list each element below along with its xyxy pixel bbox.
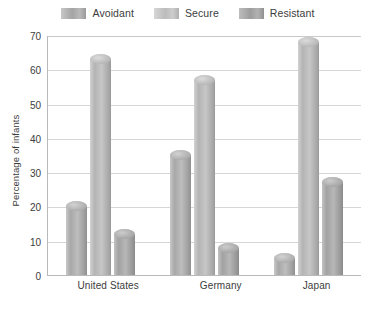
legend-swatch-resistant-icon [239,8,264,19]
legend-swatch-secure-icon [154,8,179,19]
bar-body [170,155,191,275]
chart-legend: Avoidant Secure Resistant [0,7,376,19]
bar-chart: Avoidant Secure Resistant Percentage of … [0,0,376,311]
bar-cap [114,229,135,239]
y-tick-label-40: 40 [30,133,41,144]
plot-area [47,36,361,276]
bar-resistant-united-states[interactable] [114,229,135,275]
legend-item-avoidant: Avoidant [61,7,133,19]
legend-label-secure: Secure [185,7,219,19]
bar-body [322,182,343,275]
bar-cap [194,75,215,85]
bar-secure-japan[interactable] [298,37,319,275]
bar-body [66,206,87,275]
bar-body [194,80,215,275]
bar-cap [274,253,295,263]
y-tick-label-10: 10 [30,236,41,247]
y-tick-label-0: 0 [35,271,41,282]
bar-secure-germany[interactable] [194,75,215,275]
y-tick-label-50: 50 [30,99,41,110]
bar-cap [170,150,191,160]
legend-label-avoidant: Avoidant [92,7,133,19]
legend-swatch-avoidant-icon [61,8,86,19]
bar-group-germany [170,36,239,275]
bar-resistant-germany[interactable] [218,243,239,275]
x-axis-ticks: United StatesGermanyJapan [47,280,361,291]
legend-item-secure: Secure [154,7,219,19]
y-tick-label-70: 70 [30,31,41,42]
legend-label-resistant: Resistant [270,7,315,19]
bar-cap [298,37,319,47]
y-tick-label-60: 60 [30,65,41,76]
bar-groups [48,36,361,275]
y-axis-ticks: 706050403020100 [0,36,47,276]
bar-secure-united-states[interactable] [90,54,111,275]
bar-resistant-japan[interactable] [322,177,343,275]
x-tick-label-germany: Germany [200,280,242,291]
y-tick-label-30: 30 [30,168,41,179]
bar-cap [218,243,239,253]
bar-body [90,59,111,275]
bar-avoidant-japan[interactable] [274,253,295,275]
bar-group-japan [274,36,343,275]
y-tick-label-20: 20 [30,202,41,213]
bar-avoidant-united-states[interactable] [66,201,87,275]
bar-group-united-states [66,36,135,275]
x-tick-label-united-states: United States [78,280,139,291]
bar-cap [90,54,111,64]
legend-item-resistant: Resistant [239,7,315,19]
x-tick-label-japan: Japan [303,280,331,291]
bar-body [298,42,319,275]
bar-avoidant-germany[interactable] [170,150,191,275]
bar-body [114,234,135,275]
